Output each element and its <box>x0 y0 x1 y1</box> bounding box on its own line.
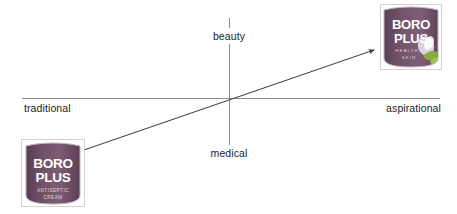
pack-descriptor-line-1: ANTISEPTIC <box>37 188 69 193</box>
pack-descriptor-line-2: SKIN <box>402 55 417 60</box>
axis-label-medical: medical <box>205 145 254 161</box>
pack-brand-line-2: PLUS <box>35 170 70 185</box>
pack-artwork-antiseptic-cream: BORO PLUS ANTISEPTIC CREAM <box>21 139 85 207</box>
pack-descriptor-line-1: HEALTHY <box>395 48 423 53</box>
product-pack-antiseptic-cream[interactable]: BORO PLUS ANTISEPTIC CREAM <box>21 139 85 207</box>
pack-brand-line-1: BORO <box>392 17 430 32</box>
pack-artwork-healthy-skin: BORO PLUS HEALTHY SKIN <box>380 4 442 70</box>
positioning-map: traditional aspirational beauty medical <box>0 0 457 214</box>
axis-label-beauty: beauty <box>207 28 251 44</box>
pack-brand-line-2: PLUS <box>394 31 428 46</box>
product-pack-healthy-skin[interactable]: BORO PLUS HEALTHY SKIN <box>380 4 442 70</box>
axis-label-traditional: traditional <box>24 102 71 114</box>
axis-label-aspirational: aspirational <box>386 102 441 114</box>
horizontal-axis <box>22 98 440 99</box>
pack-descriptor-line-2: CREAM <box>43 195 62 200</box>
pack-brand-line-1: BORO <box>33 156 73 171</box>
